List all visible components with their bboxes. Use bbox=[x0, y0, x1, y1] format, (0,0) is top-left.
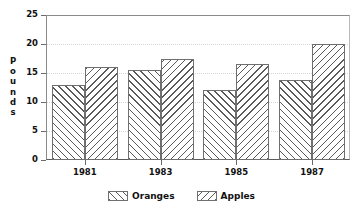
y-tick-label: 5 bbox=[20, 126, 38, 135]
y-axis-title-letter: s bbox=[10, 107, 15, 117]
y-tick-label: 10 bbox=[20, 97, 38, 106]
legend-item-apples[interactable]: Apples bbox=[197, 191, 255, 201]
y-axis-title-letter: d bbox=[10, 97, 16, 107]
bar-apples-1985 bbox=[236, 64, 269, 160]
y-axis-title: Pounds bbox=[6, 56, 20, 117]
y-tick-label: 15 bbox=[20, 68, 38, 77]
legend-label-apples: Apples bbox=[221, 191, 255, 201]
y-tick-label: 25 bbox=[20, 10, 38, 19]
y-tick-label: 20 bbox=[20, 39, 38, 48]
legend-swatch-oranges bbox=[108, 191, 128, 201]
legend-label-oranges: Oranges bbox=[132, 191, 174, 201]
chart-legend: OrangesApples bbox=[0, 191, 363, 201]
x-tick-mark bbox=[161, 160, 162, 165]
bar-apples-1981 bbox=[85, 67, 118, 160]
bar-apples-1987 bbox=[312, 44, 345, 160]
bar-oranges-1981 bbox=[52, 85, 85, 160]
x-tick-mark bbox=[236, 160, 237, 165]
y-axis-title-letter: u bbox=[10, 76, 16, 86]
bar-apples-1983 bbox=[161, 59, 194, 161]
y-tick-label: 0 bbox=[20, 155, 38, 164]
x-tick-label: 1983 bbox=[141, 167, 181, 177]
bar-oranges-1983 bbox=[128, 70, 161, 160]
y-axis-title-letter: n bbox=[10, 87, 16, 97]
x-tick-label: 1985 bbox=[216, 167, 256, 177]
bar-oranges-1985 bbox=[203, 90, 236, 160]
bar-oranges-1987 bbox=[279, 80, 312, 160]
x-tick-label: 1987 bbox=[292, 167, 332, 177]
bars-layer bbox=[47, 15, 350, 160]
x-tick-mark bbox=[312, 160, 313, 165]
x-tick-label: 1981 bbox=[65, 167, 105, 177]
bar-chart: Pounds 0510152025 1981198319851987 Orang… bbox=[0, 0, 363, 218]
y-tick-mark bbox=[41, 160, 46, 161]
y-axis-title-letter: P bbox=[10, 56, 16, 66]
y-axis-title-letter: o bbox=[10, 66, 16, 76]
legend-item-oranges[interactable]: Oranges bbox=[108, 191, 174, 201]
x-tick-mark bbox=[85, 160, 86, 165]
legend-swatch-apples bbox=[197, 191, 217, 201]
